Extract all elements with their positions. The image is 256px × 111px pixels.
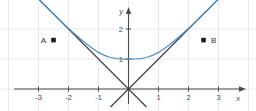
coordinate-graph-figure: -3-2-112312xyAB	[0, 0, 256, 111]
x-tick-label: 1	[156, 93, 160, 102]
point-label-b: B	[211, 36, 216, 45]
point-marker-a[interactable]	[51, 38, 56, 43]
x-tick-label: -1	[95, 93, 102, 102]
y-tick-label: 1	[119, 55, 123, 64]
y-tick-label: 2	[119, 25, 123, 34]
point-marker-b[interactable]	[201, 38, 206, 43]
tangent-line	[33, 0, 147, 107]
plot-canvas: -3-2-112312xyAB	[0, 0, 256, 111]
tangent-line	[111, 0, 225, 107]
x-axis-arrowhead	[239, 86, 246, 91]
x-tick-label: -3	[35, 93, 42, 102]
x-tick-label: -2	[65, 93, 72, 102]
y-axis-arrowhead	[126, 7, 131, 14]
axes	[14, 7, 246, 104]
y-axis-name: y	[118, 7, 124, 16]
point-label-a: A	[41, 36, 47, 45]
x-tick-label: 3	[216, 93, 220, 102]
x-axis-name: x	[235, 94, 240, 103]
x-tick-label: 2	[186, 93, 190, 102]
